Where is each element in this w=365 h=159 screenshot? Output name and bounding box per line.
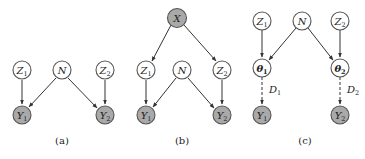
- node-y2: Y2: [331, 106, 349, 124]
- node-n: N: [293, 12, 311, 30]
- panel-c: Z1 N Z2 θ1 θ2 Y1 Y2 D1 D2 (c): [253, 12, 359, 146]
- node-y1: Y1: [13, 106, 31, 124]
- graphical-models-figure: Z1 N Z2 Y1 Y2 (a) X: [0, 0, 365, 159]
- panel-b: X Z1 N Z2 Y1 Y2 (b): [137, 9, 231, 147]
- edge-x-z2: [184, 25, 216, 61]
- edge-n-y1: [29, 78, 56, 107]
- node-z1: Z1: [137, 61, 155, 79]
- svg-text:N: N: [177, 65, 188, 76]
- svg-text:X: X: [172, 13, 181, 24]
- edge-label-d1: D1: [268, 84, 281, 97]
- edge-n-y2: [188, 78, 214, 108]
- node-n: N: [53, 61, 71, 79]
- node-y1: Y1: [137, 106, 155, 124]
- edge-n-y2: [68, 78, 97, 108]
- node-z2: Z2: [96, 61, 114, 79]
- edge-n-y1: [153, 78, 176, 107]
- edge-n-theta1: [269, 28, 296, 60]
- node-y2: Y2: [213, 106, 231, 124]
- svg-text:N: N: [57, 65, 68, 76]
- edge-n-theta2: [308, 28, 333, 60]
- node-n: N: [173, 61, 191, 79]
- node-x: X: [168, 9, 187, 28]
- edge-label-d2: D2: [346, 84, 359, 97]
- panel-a: Z1 N Z2 Y1 Y2 (a): [13, 61, 114, 146]
- svg-text:N: N: [297, 16, 308, 27]
- caption-c: (c): [298, 135, 312, 146]
- node-theta2: θ2: [331, 59, 349, 77]
- node-z2: Z2: [213, 61, 231, 79]
- node-z1: Z1: [13, 61, 31, 79]
- node-z1: Z1: [253, 12, 271, 30]
- node-y1: Y1: [253, 106, 271, 124]
- caption-a: (a): [55, 135, 69, 146]
- node-z2: Z2: [331, 12, 349, 30]
- node-theta1: θ1: [253, 59, 271, 77]
- caption-b: (b): [175, 135, 189, 146]
- edge-x-z1: [152, 25, 171, 61]
- node-y2: Y2: [96, 106, 114, 124]
